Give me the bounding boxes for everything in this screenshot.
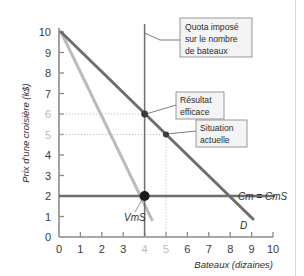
resultat-efficace-line-2: efficace: [180, 107, 210, 117]
situation-actuelle-callout-box[interactable]: Situation actuelle: [196, 120, 247, 147]
y-tick-labels: 0 1 2 3 4 5 6 7 8 9 10: [39, 26, 51, 243]
resultat-efficace-callout-box[interactable]: Résultat efficace: [176, 92, 224, 119]
x-tick-labels: 0 1 2 3 4 5 6 7 8 9 10: [56, 243, 279, 255]
x-tick-label-7: 7: [206, 243, 212, 255]
y-tick-label-0: 0: [45, 231, 51, 243]
quota-callout-line-1: Quota imposé: [185, 22, 239, 32]
vms-curve-label: VmS: [124, 212, 146, 223]
resultat-efficace-point[interactable]: [141, 111, 148, 118]
x-tick-label-0: 0: [56, 243, 62, 255]
situation-actuelle-line-1: Situation: [200, 123, 234, 133]
x-axis-title: Bateaux (dizaines): [194, 259, 273, 270]
vms-curve: [61, 32, 152, 220]
x-tick-label-8: 8: [227, 243, 233, 255]
demand-curve-label: D: [240, 220, 247, 231]
x-tick-label-2: 2: [99, 243, 105, 255]
situation-actuelle-leader-line: [167, 131, 196, 134]
y-tick-label-3: 3: [45, 170, 51, 182]
quota-callout-line-3: de bateaux: [185, 46, 228, 56]
figure-right-border: [295, 0, 296, 276]
situation-actuelle-line-2: actuelle: [200, 135, 230, 145]
y-tick-label-1: 1: [45, 211, 51, 223]
quota-leader-line: [145, 33, 180, 40]
y-tick-label-6: 6: [45, 108, 51, 120]
y-tick-label-10: 10: [39, 26, 51, 38]
x-tick-label-4: 4: [142, 243, 148, 255]
y-tick-label-2: 2: [45, 190, 51, 202]
quota-callout-box[interactable]: Quota imposé sur le nombre de bateaux: [180, 18, 252, 57]
resultat-efficace-line-1: Résultat: [180, 95, 212, 105]
y-tick-label-5: 5: [45, 129, 51, 141]
economics-quota-chart: 0 1 2 3 4 5 6 7 8 9 10 0 1 2 3 4 5 6 7 8…: [0, 0, 304, 276]
y-tick-label-8: 8: [45, 67, 51, 79]
y-tick-label-7: 7: [45, 88, 51, 100]
resultat-efficace-leader-line: [146, 105, 176, 114]
x-tick-label-5: 5: [163, 243, 169, 255]
situation-actuelle-point[interactable]: [163, 132, 169, 138]
chart-figure: 0 1 2 3 4 5 6 7 8 9 10 0 1 2 3 4 5 6 7 8…: [0, 0, 304, 276]
marginal-cost-curve-label: Cm = CmS: [238, 191, 288, 202]
x-tick-label-6: 6: [184, 243, 190, 255]
y-axis-title: Prix d'une croisière (k$): [20, 83, 31, 183]
y-tick-label-9: 9: [45, 47, 51, 59]
x-tick-label-1: 1: [77, 243, 83, 255]
vms-cost-intersection-point[interactable]: [140, 191, 150, 201]
y-tick-label-4: 4: [45, 149, 51, 161]
x-tick-label-10: 10: [267, 243, 279, 255]
x-tick-label-3: 3: [120, 243, 126, 255]
x-tick-label-9: 9: [249, 243, 255, 255]
quota-callout-line-2: sur le nombre: [185, 34, 238, 44]
